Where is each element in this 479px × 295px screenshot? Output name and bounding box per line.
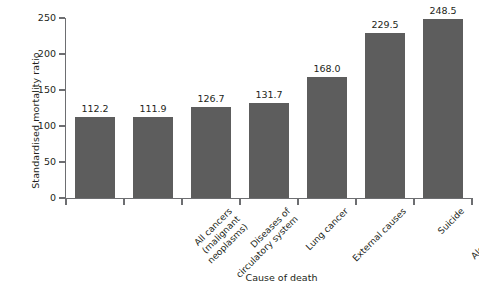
y-axis-tick-label-text: 250 (20, 13, 56, 23)
x-axis-tick (239, 199, 240, 205)
y-axis-tick-label-text: 200 (20, 49, 56, 59)
bar-value-label: 112.2 (70, 104, 120, 114)
y-axis-tick (59, 53, 65, 54)
bar (423, 19, 463, 198)
y-axis-tick-label: 100 (20, 121, 56, 131)
x-axis-tick (355, 199, 356, 205)
x-axis-tick (471, 199, 472, 205)
y-axis-tick (59, 125, 65, 126)
bar-chart: Standardised mortality ratio 05010015020… (0, 0, 479, 295)
y-axis-tick-label: 50 (20, 157, 56, 167)
y-axis-tick-label-text: 100 (20, 121, 56, 131)
y-axis-tick-label: 0 (20, 193, 56, 203)
y-axis-tick-label-text: 50 (20, 157, 56, 167)
bar-value-label: 229.5 (360, 20, 410, 30)
x-axis-tick (413, 199, 414, 205)
y-axis-tick (59, 161, 65, 162)
bar-value-label: 131.7 (244, 90, 294, 100)
y-axis-tick (59, 89, 65, 90)
x-axis-tick (181, 199, 182, 205)
x-axis-tick (123, 199, 124, 205)
x-axis-tick (297, 199, 298, 205)
bar-value-label: 168.0 (302, 64, 352, 74)
y-axis-tick-label: 250 (20, 13, 56, 23)
bar-value-label: 126.7 (186, 94, 236, 104)
x-axis-tick (65, 199, 66, 205)
x-axis-line (65, 198, 473, 199)
bar (133, 117, 173, 198)
bar (307, 77, 347, 198)
bar-value-label: 111.9 (128, 104, 178, 114)
y-axis-tick (59, 17, 65, 18)
y-axis-tick-label: 150 (20, 85, 56, 95)
x-axis-title-text: Cause of death (246, 272, 318, 283)
y-axis-tick-label-text: 0 (20, 193, 56, 203)
y-axis-tick (59, 197, 65, 198)
plot-area (66, 18, 472, 198)
bar (249, 103, 289, 198)
bar-value-label: 248.5 (418, 6, 468, 16)
x-axis-title: Cause of death (0, 272, 479, 283)
bar (75, 117, 115, 198)
bar (365, 33, 405, 198)
bar (191, 107, 231, 198)
y-axis-tick-label-text: 150 (20, 85, 56, 95)
y-axis-tick-label: 200 (20, 49, 56, 59)
